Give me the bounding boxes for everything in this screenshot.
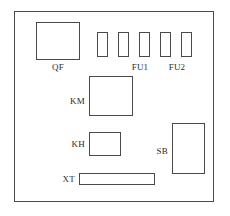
fuse-5[interactable]: [181, 32, 192, 57]
label-fu1: FU1: [128, 62, 152, 72]
fuse-1[interactable]: [97, 32, 108, 57]
component-xt-terminal-block[interactable]: [79, 173, 155, 185]
label-qf: QF: [36, 62, 80, 72]
component-kh-thermal-relay[interactable]: [89, 132, 121, 156]
component-km-contactor[interactable]: [89, 76, 133, 116]
label-fu2: FU2: [165, 62, 189, 72]
fuse-4[interactable]: [160, 32, 171, 57]
label-kh: KH: [57, 139, 85, 149]
label-km: KM: [57, 96, 85, 106]
component-qf-circuit-breaker[interactable]: [36, 22, 80, 60]
fuse-3[interactable]: [139, 32, 150, 57]
component-sb-push-button[interactable]: [172, 123, 205, 174]
diagram-canvas: QF FU1 FU2 KM KH SB XT: [0, 0, 230, 216]
label-xt: XT: [47, 174, 75, 184]
label-sb: SB: [140, 146, 168, 156]
fuse-2[interactable]: [118, 32, 129, 57]
